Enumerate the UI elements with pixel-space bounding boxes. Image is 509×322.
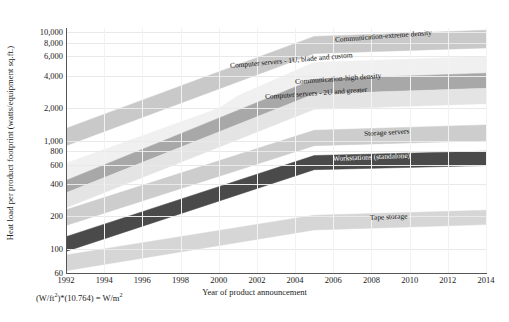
gridline-vertical — [448, 28, 449, 273]
unit-conversion-text: (W/ft2)*(10.764) = W/m2 — [36, 293, 122, 303]
y-axis-tick-label: 600 — [50, 160, 63, 170]
x-axis-tick-label: 1996 — [134, 275, 151, 285]
gridline-horizontal — [66, 141, 486, 142]
y-axis-line — [66, 28, 67, 274]
x-axis-tick-label: 2006 — [325, 275, 342, 285]
x-axis-tick-label: 2002 — [248, 275, 265, 285]
x-axis-tick-label: 1992 — [58, 275, 75, 285]
x-axis-tick-label: 2000 — [210, 275, 227, 285]
y-axis-tick-label: 2,000 — [44, 103, 63, 113]
gridline-vertical — [104, 28, 105, 273]
gridline-horizontal — [66, 43, 486, 44]
plot-area: Communication-extreme densityComputer se… — [66, 28, 486, 273]
y-axis-tick-label: 200 — [50, 211, 63, 221]
gridline-horizontal — [66, 76, 486, 77]
x-axis-tick-label: 2014 — [478, 275, 495, 285]
y-axis-tick-label: 100 — [50, 244, 63, 254]
gridline-vertical — [410, 28, 411, 273]
gridline-horizontal — [66, 165, 486, 166]
gridline-vertical — [257, 28, 258, 273]
gridline-horizontal — [66, 108, 486, 109]
gridline-vertical — [181, 28, 182, 273]
x-axis-tick-label: 2004 — [287, 275, 304, 285]
y-axis-tick-label: 800 — [50, 146, 63, 156]
y-axis-tick-label: 400 — [50, 179, 63, 189]
y-axis-title-text: Heat load per product footprint (watts/e… — [5, 45, 15, 239]
y-axis-tick-label: 1,000 — [44, 136, 63, 146]
x-axis-title-text: Year of product announcement — [202, 287, 307, 297]
x-axis-tick-label: 2010 — [401, 275, 418, 285]
gridline-vertical — [486, 28, 487, 273]
gridline-vertical — [295, 28, 296, 273]
gridline-vertical — [371, 28, 372, 273]
unit-conversion-footnote: (W/ft2)*(10.764) = W/m2 — [36, 292, 122, 303]
y-axis-tick-label: 8,000 — [44, 38, 63, 48]
x-axis-line — [66, 273, 487, 274]
gridline-horizontal — [66, 32, 486, 33]
gridline-vertical — [219, 28, 220, 273]
y-axis-tick-label: 6,000 — [44, 51, 63, 61]
gridline-horizontal — [66, 184, 486, 185]
gridline-horizontal — [66, 56, 486, 57]
gridline-horizontal — [66, 151, 486, 152]
gridline-horizontal — [66, 249, 486, 250]
gridline-vertical — [333, 28, 334, 273]
y-axis-tick-label: 10,000 — [40, 27, 63, 37]
x-axis-tick-label: 2012 — [439, 275, 456, 285]
x-axis-tick-label: 2008 — [363, 275, 380, 285]
x-axis-tick-label: 1994 — [96, 275, 113, 285]
gridline-horizontal — [66, 216, 486, 217]
chart-root: Heat load per product footprint (watts/e… — [0, 0, 509, 322]
y-axis-tick-label: 4,000 — [44, 71, 63, 81]
x-axis-tick-label: 1998 — [172, 275, 189, 285]
gridline-vertical — [142, 28, 143, 273]
y-axis-ticks: 10,0008,0006,0004,0002,0001,000800600400… — [16, 28, 63, 273]
